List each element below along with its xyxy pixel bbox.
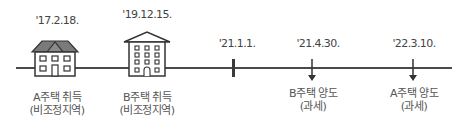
event-date-a-acquire: '17.2.18. xyxy=(35,14,78,27)
event-date-b-acquire: '19.12.15. xyxy=(122,8,172,21)
event-date-tick: '21.1.1. xyxy=(219,37,256,50)
event-label-a-sale: A주택 양도 (과세) xyxy=(390,87,438,113)
down-arrow-icon xyxy=(306,59,318,83)
event-date-a-sale: '22.3.10. xyxy=(392,37,435,50)
down-arrow-icon xyxy=(407,59,419,83)
tick-mark xyxy=(232,59,235,77)
apartment-building-icon xyxy=(122,30,172,78)
event-label-b-sale: B주택 양도 (과세) xyxy=(289,87,337,113)
event-label-b-acquire: B주택 취득 (비조정지역) xyxy=(119,91,174,117)
event-label-a-acquire: A주택 취득 (비조정지역) xyxy=(29,91,84,117)
event-date-b-sale: '21.4.30. xyxy=(296,37,339,50)
house-icon xyxy=(30,38,80,78)
